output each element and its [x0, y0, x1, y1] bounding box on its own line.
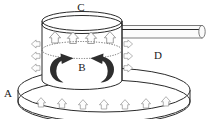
left-outflow-arrow: [31, 40, 40, 48]
diagram-canvas: C B D A: [0, 0, 209, 119]
label-b: B: [78, 61, 85, 73]
outlet-pipe-end-cap: [199, 25, 205, 38]
left-outflow-arrow: [31, 52, 40, 60]
label-a: A: [4, 87, 12, 99]
outlet-pipe-group: [118, 25, 205, 38]
diagram-figure: C B D A: [0, 0, 209, 119]
label-d: D: [154, 49, 162, 61]
right-outflow-arrow: [124, 52, 133, 60]
label-c: C: [77, 1, 84, 13]
right-outflow-arrow: [124, 40, 133, 48]
outlet-pipe-body: [118, 26, 202, 39]
vessel-top-rim: [42, 12, 122, 31]
left-outflow-arrows: [31, 40, 40, 72]
left-outflow-arrow: [31, 64, 40, 72]
right-outflow-arrows: [124, 40, 133, 72]
